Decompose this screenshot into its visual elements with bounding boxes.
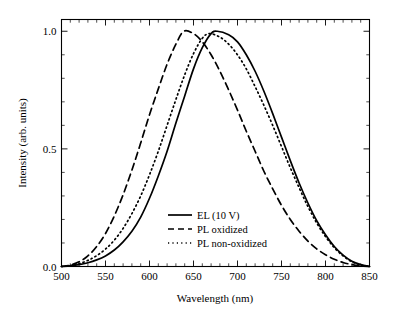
figure-container: 500550600650700750800850 0.00.51.0 Wavel… [0, 0, 402, 313]
x-axis-title: Wavelength (nm) [177, 292, 254, 305]
x-tick-label: 600 [141, 270, 158, 282]
x-tick-label: 850 [361, 270, 378, 282]
chart-legend: EL (10 V)PL oxidizedPL non-oxidized [168, 210, 268, 249]
legend-label-1: PL oxidized [197, 224, 248, 235]
y-tick-label: 0.0 [43, 261, 57, 273]
y-axis-tick-labels: 0.00.51.0 [43, 25, 57, 272]
x-axis-tick-labels: 500550600650700750800850 [53, 270, 378, 282]
x-tick-label: 750 [273, 270, 290, 282]
x-tick-label: 700 [229, 270, 246, 282]
x-tick-label: 800 [317, 270, 334, 282]
spectra-line-chart: 500550600650700750800850 0.00.51.0 Wavel… [0, 0, 402, 313]
legend-label-0: EL (10 V) [197, 210, 240, 222]
y-tick-label: 0.5 [43, 143, 57, 155]
x-tick-label: 550 [97, 270, 114, 282]
legend-label-2: PL non-oxidized [197, 238, 268, 249]
y-axis-title: Intensity (arb. units) [16, 98, 29, 188]
y-tick-label: 1.0 [43, 25, 57, 37]
x-tick-label: 650 [185, 270, 202, 282]
